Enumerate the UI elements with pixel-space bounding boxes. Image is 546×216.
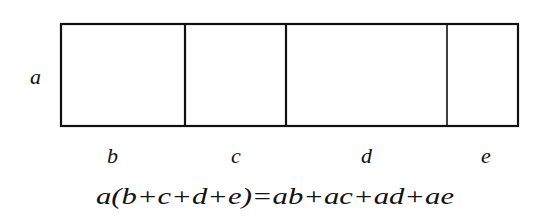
segment-label-e: e xyxy=(481,143,491,168)
distributive-formula: a(b+c+d+e)=ab+ac+ad+ae xyxy=(96,184,454,209)
segment-label-c: c xyxy=(231,143,241,168)
height-label-a: a xyxy=(30,64,41,89)
segment-label-b: b xyxy=(107,143,118,168)
segment-label-d: d xyxy=(361,143,373,168)
outer-rectangle xyxy=(61,24,518,126)
rectangle xyxy=(61,24,518,126)
area-model-diagram: a b c d e a(b+c+d+e)=ab+ac+ad+ae xyxy=(0,0,546,216)
